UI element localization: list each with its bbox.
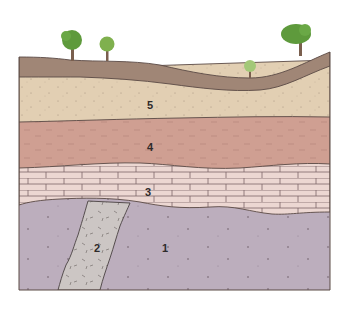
tree-4-icon [281,24,311,56]
layer-3-label: 3 [145,186,151,198]
layer-1-label: 1 [162,242,168,254]
tree-2-icon [100,37,115,62]
layer-5-label: 5 [147,99,153,111]
geologic-cross-section: 5 4 3 2 1 [0,0,344,311]
tree-1-icon [61,30,82,61]
layer-4-label: 4 [147,141,154,153]
layer-2-label: 2 [94,242,100,254]
strata [19,52,330,290]
